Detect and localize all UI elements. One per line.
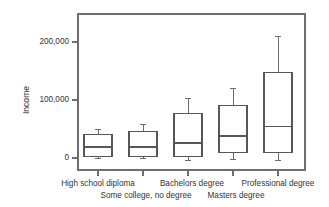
x-tick-label-bachelors-degree: Bachelors degree	[160, 179, 225, 188]
x-tick-label-some-college-no-degree: Some college, no degree	[100, 191, 191, 200]
box-plot-4	[219, 89, 247, 160]
iqr-box	[174, 114, 202, 156]
x-tick-label-high-school-diploma: High school diploma	[61, 179, 135, 188]
iqr-box	[129, 132, 157, 157]
x-tick-label-professional-degree: Professional degree	[242, 179, 315, 188]
y-tick-label-200000: 200,000	[39, 37, 69, 46]
iqr-box	[264, 73, 292, 152]
box-plot-1	[84, 129, 112, 158]
y-axis-ticks	[72, 42, 78, 158]
x-axis-tick-labels: High school diploma Some college, no deg…	[61, 179, 315, 200]
box-plot-3	[174, 99, 202, 161]
y-tick-label-0: 0	[64, 153, 69, 162]
boxplot-series	[84, 37, 292, 161]
boxplot-figure: 200,000 100,000 0 Income High school dip…	[0, 0, 329, 207]
x-tick-label-masters-degree: Masters degree	[208, 191, 265, 200]
box-plot-5	[264, 37, 292, 161]
box-plot-2	[129, 125, 157, 158]
y-axis-title-text: Income	[21, 86, 31, 114]
y-axis-tick-labels: 200,000 100,000 0	[39, 37, 69, 162]
y-axis-title: Income	[21, 86, 31, 114]
y-tick-label-100000: 100,000	[39, 95, 69, 104]
iqr-box	[219, 105, 247, 152]
x-axis-ticks	[98, 170, 278, 176]
chart-canvas: 200,000 100,000 0 Income High school dip…	[0, 0, 329, 207]
iqr-box	[84, 135, 112, 157]
